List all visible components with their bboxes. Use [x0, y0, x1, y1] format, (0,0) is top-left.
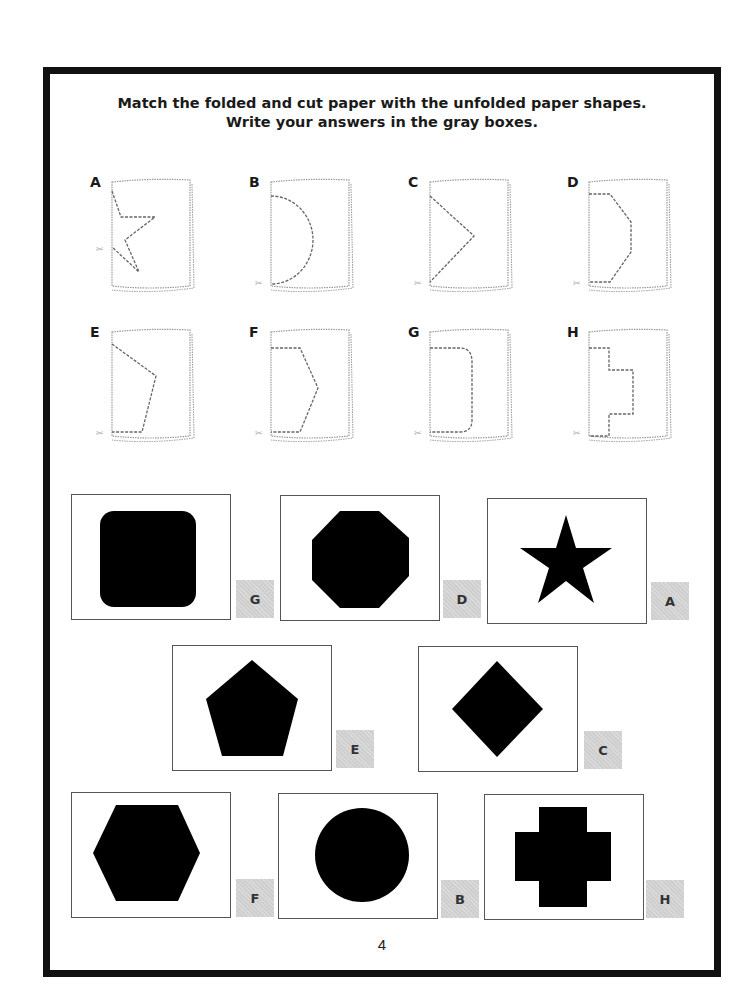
folded-paper-h: H ✂: [567, 324, 687, 454]
instruction-line-1: Match the folded and cut paper with the …: [50, 93, 714, 113]
circle-icon: [279, 794, 437, 918]
answer-box[interactable]: A: [651, 582, 689, 620]
shape-box-pentagon: [172, 645, 332, 771]
shape-box-cross: [484, 794, 644, 920]
shape-box-star: [487, 498, 647, 624]
scissors-icon: ✂: [414, 428, 422, 438]
scissors-icon: ✂: [255, 278, 263, 288]
diamond-icon: [419, 647, 577, 771]
answer-box[interactable]: H: [646, 880, 684, 918]
octagon-icon: [281, 496, 439, 620]
shape-box-circle: [278, 793, 438, 919]
scissors-icon: ✂: [96, 428, 104, 438]
scissors-icon: ✂: [573, 278, 581, 288]
folded-paper-d: D ✂: [567, 174, 687, 304]
shape-box-rounded-square: [71, 494, 231, 620]
shape-box-octagon: [280, 495, 440, 621]
scissors-icon: ✂: [96, 244, 104, 254]
shape-box-diamond: [418, 646, 578, 772]
folded-paper-b: B ✂: [249, 174, 369, 304]
folded-paper-pentagon-cut-icon: ✂: [90, 324, 210, 454]
folded-paper-star-cut-icon: ✂: [90, 174, 210, 304]
folded-paper-octagon-cut-icon: ✂: [567, 174, 687, 304]
answer-box[interactable]: F: [236, 879, 274, 917]
hexagon-icon: [72, 793, 230, 917]
folded-paper-f: F ✂: [249, 324, 369, 454]
folded-paper-cross-cut-icon: ✂: [567, 324, 687, 454]
cross-icon: [485, 795, 643, 919]
star-icon: [488, 499, 646, 623]
scissors-icon: ✂: [573, 428, 581, 438]
folded-paper-a: A ✂: [90, 174, 210, 304]
folded-paper-rounded-square-cut-icon: ✂: [408, 324, 528, 454]
folded-paper-e: E ✂: [90, 324, 210, 454]
pentagon-icon: [173, 646, 331, 770]
folded-paper-c: C ✂: [408, 174, 528, 304]
rounded-square-icon: [72, 495, 230, 619]
answer-box[interactable]: C: [584, 731, 622, 769]
shape-box-hexagon: [71, 792, 231, 918]
answer-box[interactable]: D: [443, 580, 481, 618]
folded-paper-hexagon-cut-icon: ✂: [249, 324, 369, 454]
worksheet-frame: Match the folded and cut paper with the …: [43, 67, 721, 977]
answer-box[interactable]: G: [236, 580, 274, 618]
scissors-icon: ✂: [414, 278, 422, 288]
folded-paper-g: G ✂: [408, 324, 528, 454]
scissors-icon: ✂: [255, 428, 263, 438]
page-number: 4: [50, 936, 714, 953]
instruction-line-2: Write your answers in the gray boxes.: [50, 112, 714, 132]
folded-paper-diamond-cut-icon: ✂: [408, 174, 528, 304]
answer-box[interactable]: B: [441, 880, 479, 918]
folded-paper-circle-cut-icon: ✂: [249, 174, 369, 304]
answer-box[interactable]: E: [336, 730, 374, 768]
